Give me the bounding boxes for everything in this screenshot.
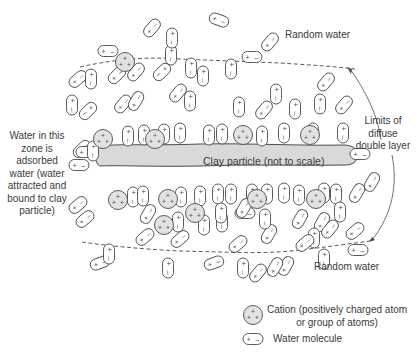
water-molecule-icon: +– [247,262,268,284]
svg-text:+: + [140,189,147,193]
svg-text:+: + [105,138,109,145]
water-molecule-icon: +– [347,182,367,205]
svg-text:–: – [256,336,260,343]
water-molecule-icon: +– [208,11,231,28]
limits-line-2: diffuse [348,128,416,141]
water-molecule-icon: +– [226,59,237,79]
water-molecule-icon: +– [69,160,89,171]
water-molecule-icon: +– [227,233,249,254]
svg-text:–: – [200,79,207,83]
svg-text:+: + [259,129,266,133]
svg-text:–: – [337,215,344,219]
svg-text:+: + [240,261,247,265]
svg-text:+: + [304,134,308,141]
water-molecule-icon: +– [335,202,346,222]
svg-text:+: + [247,314,251,321]
adsorbed-line-5: attracted and [2,180,72,193]
svg-text:+: + [161,127,168,131]
cation-icon: +++ [146,130,165,149]
svg-text:+: + [166,224,170,231]
svg-text:–: – [69,108,76,112]
svg-text:+: + [321,252,328,256]
svg-text:–: – [165,271,172,275]
svg-text:–: – [215,197,222,201]
water-molecule-icon: +– [195,186,206,206]
svg-text:–: – [262,222,269,226]
svg-text:+: + [262,212,269,216]
water-molecule-icon: +– [216,203,227,223]
svg-text:+: + [170,198,174,205]
water-molecule-icon: +– [331,184,342,204]
svg-text:–: – [178,200,185,204]
svg-text:+: + [175,215,182,219]
svg-text:+: + [157,138,161,145]
svg-text:+: + [178,190,185,194]
svg-text:+: + [165,261,172,265]
water-molecule-icon: +– [243,334,263,345]
cation-icon: +++ [186,204,205,223]
svg-text:–: – [187,104,194,108]
svg-text:+: + [162,198,166,205]
svg-text:+: + [337,205,344,209]
svg-text:–: – [125,139,132,143]
water-molecule-icon: +– [128,187,139,207]
water-molecule-icon: +– [213,184,224,204]
water-molecule-icon: +– [67,95,78,115]
svg-text:+: + [228,62,235,66]
svg-text:+: + [189,212,193,219]
svg-text:–: – [255,54,259,61]
svg-text:–: – [90,154,97,158]
cation-icon: +++ [234,126,253,145]
svg-text:+: + [318,198,322,205]
water-molecule-icon: +– [294,185,305,205]
svg-text:+: + [215,187,222,191]
svg-text:+: + [149,138,153,145]
water-molecule-icon: +– [226,184,237,204]
adsorbed-water-label: Water in this zone is adsorbed water (wa… [2,130,72,218]
water-molecule-icon: +– [126,90,146,113]
svg-text:+: + [245,54,249,61]
limits-label: Limits of diffuse double layer [348,115,416,153]
adsorbed-line-2: zone is [2,143,72,156]
svg-text:+: + [69,98,76,102]
water-molecule-icon: +– [257,126,268,146]
svg-text:+: + [259,198,263,205]
water-molecule-icon: +– [173,212,184,232]
svg-text:–: – [240,271,247,275]
water-molecule-icon: +– [123,126,134,146]
water-molecule-icon: +– [234,97,245,117]
svg-text:+: + [312,134,316,141]
svg-text:–: – [228,72,235,76]
water-molecule-icon: +– [260,209,271,229]
water-molecule-icon: +– [259,31,280,53]
svg-text:+: + [177,126,184,130]
adsorbed-line-7: particle) [2,205,72,218]
svg-text:–: – [259,139,266,143]
water-molecule-icon: +– [344,220,366,241]
water-molecule-icon: +– [290,99,301,119]
water-molecule-icon: +– [167,28,178,48]
water-molecule-icon: +– [134,226,156,247]
water-molecule-icon: +– [217,124,228,144]
water-molecule-icon: +– [203,254,226,271]
water-molecule-icon: +– [242,52,262,63]
legend-icons: ++++– [243,306,263,345]
svg-text:+: + [310,198,314,205]
svg-text:–: – [188,71,195,75]
water-molecule-icon: +– [279,123,290,143]
svg-text:+: + [296,188,303,192]
svg-text:+: + [218,206,225,210]
svg-text:–: – [175,225,182,229]
water-molecule-icon: +– [175,123,186,143]
svg-text:+: + [219,127,226,131]
svg-text:–: – [130,200,137,204]
svg-text:+: + [340,126,347,130]
svg-text:–: – [228,197,235,201]
svg-text:+: + [197,212,201,219]
svg-text:+: + [197,189,204,193]
water-molecule-icon: +– [204,125,215,145]
svg-text:+: + [311,231,318,235]
svg-text:+: + [237,134,241,141]
water-molecule-icon: +– [86,69,97,89]
svg-text:–: – [333,197,340,201]
